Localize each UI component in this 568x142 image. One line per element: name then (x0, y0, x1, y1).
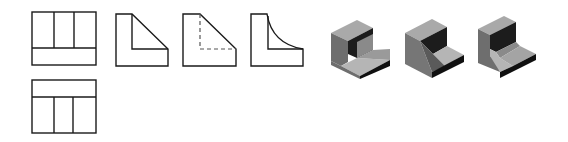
isometric-model-1 (331, 20, 390, 79)
top-view (32, 80, 96, 133)
front-view (32, 12, 96, 65)
side-view-option-b (183, 14, 236, 66)
isometric-model-3 (478, 16, 536, 78)
three-view-diagram (0, 0, 568, 142)
isometric-model-2 (405, 19, 464, 78)
side-view-option-a (116, 14, 168, 66)
side-view-option-c (251, 14, 303, 66)
